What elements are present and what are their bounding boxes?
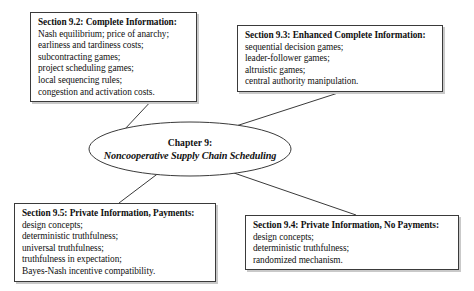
node-line-list: design concepts; deterministic truthfuln…: [253, 232, 452, 267]
node-line: congestion and activation costs.: [38, 87, 190, 99]
node-line: truthfulness in expectation;: [22, 254, 209, 266]
node-line: altruistic games;: [245, 65, 436, 77]
center-title-line: Chapter 9:: [168, 137, 212, 149]
node-line: deterministic truthfulness;: [22, 231, 209, 243]
center-node-text: Chapter 9: Noncooperative Supply Chain S…: [88, 121, 292, 177]
node-line: design concepts;: [22, 220, 209, 232]
node-line: design concepts;: [253, 232, 452, 244]
node-line-list: design concepts; deterministic truthfuln…: [22, 220, 209, 278]
node-line: universal truthfulness;: [22, 243, 209, 255]
node-line: sequential decision games;: [245, 42, 436, 54]
node-line: Nash equilibrium; price of anarchy;: [38, 29, 190, 41]
node-line: randomized mechanism.: [253, 255, 452, 267]
diagram-canvas: Section 9.2: Complete Information: Nash …: [0, 0, 474, 291]
node-title: Section 9.3: Enhanced Complete Informati…: [245, 30, 436, 42]
node-line: local sequencing rules;: [38, 75, 190, 87]
node-line: Bayes-Nash incentive compatibility.: [22, 266, 209, 278]
node-line: central authority manipulation.: [245, 76, 436, 88]
node-line-list: sequential decision games; leader-follow…: [245, 42, 436, 88]
node-section-9-5[interactable]: Section 9.5: Private Information, Paymen…: [14, 203, 216, 282]
node-title: Section 9.2: Complete Information:: [38, 17, 190, 29]
node-line: leader-follower games;: [245, 53, 436, 65]
node-line: subcontracting games;: [38, 52, 190, 64]
center-subtitle-line: Noncooperative Supply Chain Scheduling: [104, 149, 277, 162]
node-section-9-3[interactable]: Section 9.3: Enhanced Complete Informati…: [237, 25, 443, 92]
center-node-chapter-9[interactable]: Chapter 9: Noncooperative Supply Chain S…: [88, 121, 292, 177]
node-section-9-2[interactable]: Section 9.2: Complete Information: Nash …: [30, 12, 197, 102]
connector-9-4-to-center: [234, 173, 356, 215]
node-title: Section 9.4: Private Information, No Pay…: [253, 220, 452, 232]
node-section-9-4[interactable]: Section 9.4: Private Information, No Pay…: [245, 215, 459, 270]
node-line-list: Nash equilibrium; price of anarchy; earl…: [38, 29, 190, 99]
node-line: project scheduling games;: [38, 63, 190, 75]
node-line: earliness and tardiness costs;: [38, 40, 190, 52]
node-line: deterministic truthfulness;: [253, 243, 452, 255]
node-title: Section 9.5: Private Information, Paymen…: [22, 208, 209, 220]
